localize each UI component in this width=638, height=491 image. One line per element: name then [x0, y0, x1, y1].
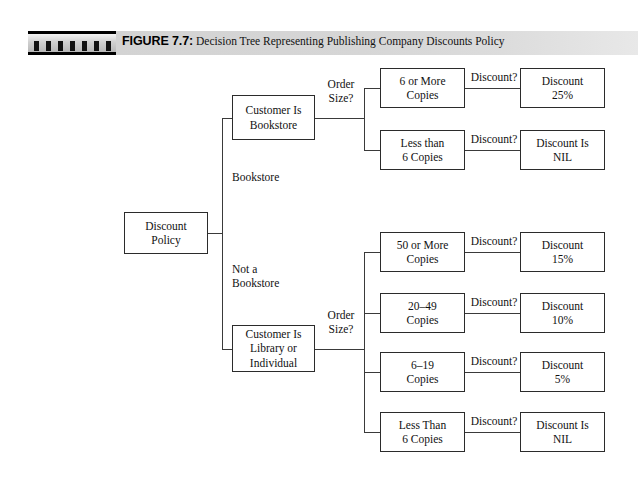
node-6-19-copies-label: 6–19 Copies — [407, 358, 439, 386]
node-less-than-6-copies-other-label: Less Than 6 Copies — [399, 418, 446, 446]
node-customer-is-library-or-individual-label: Customer Is Library or Individual — [246, 327, 302, 369]
node-discount-25[interactable]: Discount 25% — [520, 68, 605, 108]
node-discount-10-label: Discount 10% — [542, 299, 584, 327]
caption-decoration — [28, 31, 116, 55]
edge-label-order-size-top: Order Size? — [318, 78, 364, 106]
caption-tick — [82, 41, 87, 51]
node-discount-nil-other-label: Discount Is NIL — [536, 418, 589, 446]
node-customer-is-bookstore[interactable]: Customer Is Bookstore — [232, 95, 315, 140]
node-discount-nil-bookstore[interactable]: Discount Is NIL — [520, 130, 605, 170]
caption-tick — [106, 41, 111, 51]
node-50-or-more-copies-label: 50 or More Copies — [397, 238, 449, 266]
edge-label-discount-5: Discount? — [466, 355, 522, 369]
node-20-49-copies-label: 20–49 Copies — [407, 299, 439, 327]
node-6-or-more-copies-label: 6 or More Copies — [400, 74, 446, 102]
caption-tick — [58, 41, 63, 51]
decision-tree: Discount Policy Customer Is Bookstore Cu… — [0, 60, 638, 491]
node-6-19-copies[interactable]: 6–19 Copies — [380, 352, 465, 392]
node-50-or-more-copies[interactable]: 50 or More Copies — [380, 232, 465, 272]
edge-label-discount-3: Discount? — [466, 235, 522, 249]
node-discount-5[interactable]: Discount 5% — [520, 352, 605, 392]
node-less-than-6-copies-bookstore-label: Less than 6 Copies — [401, 136, 445, 164]
node-discount-15[interactable]: Discount 15% — [520, 232, 605, 272]
figure-number-label: FIGURE 7.7: — [122, 34, 193, 48]
figure-title: Decision Tree Representing Publishing Co… — [196, 35, 505, 47]
edge-label-order-size-bottom: Order Size? — [318, 309, 364, 337]
node-discount-nil-other[interactable]: Discount Is NIL — [520, 412, 605, 452]
edge-label-discount-6: Discount? — [466, 415, 522, 429]
caption-tick — [34, 41, 39, 51]
node-discount-policy[interactable]: Discount Policy — [124, 212, 208, 254]
edge-label-discount-1: Discount? — [466, 71, 522, 85]
node-less-than-6-copies-bookstore[interactable]: Less than 6 Copies — [380, 130, 465, 170]
caption-tick — [94, 41, 99, 51]
caption-tick — [46, 41, 51, 51]
node-discount-10[interactable]: Discount 10% — [520, 293, 605, 333]
node-20-49-copies[interactable]: 20–49 Copies — [380, 293, 465, 333]
node-discount-25-label: Discount 25% — [542, 74, 584, 102]
caption-rule-bottom — [28, 52, 116, 55]
node-discount-15-label: Discount 15% — [542, 238, 584, 266]
edge-label-bookstore: Bookstore — [232, 171, 322, 185]
node-less-than-6-copies-other[interactable]: Less Than 6 Copies — [380, 412, 465, 452]
edge-label-discount-2: Discount? — [466, 133, 522, 147]
node-customer-is-bookstore-label: Customer Is Bookstore — [246, 103, 302, 131]
node-discount-5-label: Discount 5% — [542, 358, 584, 386]
edge-label-not-a-bookstore: Not a Bookstore — [232, 263, 322, 291]
figure-page: FIGURE 7.7: Decision Tree Representing P… — [0, 0, 638, 491]
node-customer-is-library-or-individual[interactable]: Customer Is Library or Individual — [232, 325, 315, 372]
node-discount-policy-label: Discount Policy — [145, 219, 187, 247]
caption-tick — [70, 41, 75, 51]
node-discount-nil-bookstore-label: Discount Is NIL — [536, 136, 589, 164]
node-6-or-more-copies[interactable]: 6 or More Copies — [380, 68, 465, 108]
edge-label-discount-4: Discount? — [466, 296, 522, 310]
caption-tick-band — [28, 34, 116, 52]
